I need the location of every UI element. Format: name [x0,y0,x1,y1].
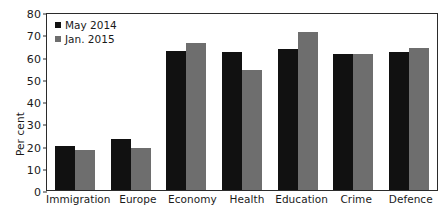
legend-item: May 2014 [55,19,117,31]
bar-group [381,14,437,190]
bar [222,52,242,190]
bar [409,48,429,190]
bar [389,52,409,190]
legend-label: Jan. 2015 [65,33,115,45]
bar [278,49,298,190]
bar [242,70,262,190]
x-tick-label: Education [274,193,329,205]
bar [186,43,206,190]
x-tick-label: Defence [383,193,438,205]
chart-legend: May 2014Jan. 2015 [55,19,117,45]
x-tick-label: Health [220,193,275,205]
bar [111,139,131,190]
bar-group [270,14,326,190]
legend-label: May 2014 [65,19,117,31]
bar [131,148,151,190]
bar-chart: Per cent 01020304050607080 ImmigrationEu… [0,0,446,222]
x-tick-label: Economy [165,193,220,205]
legend-swatch-icon [55,22,61,28]
x-tick-label: Europe [111,193,166,205]
bar [333,54,353,190]
x-axis-labels: ImmigrationEuropeEconomyHealthEducationC… [46,193,438,205]
x-tick-label: Crime [329,193,384,205]
bar [353,54,373,190]
x-tick-label: Immigration [46,193,111,205]
bar [166,51,186,190]
bar-group [214,14,270,190]
legend-swatch-icon [55,36,61,42]
bar-group [326,14,382,190]
legend-item: Jan. 2015 [55,33,117,45]
bar [298,32,318,190]
bar [75,150,95,190]
bar-group [158,14,214,190]
bar [55,146,75,191]
